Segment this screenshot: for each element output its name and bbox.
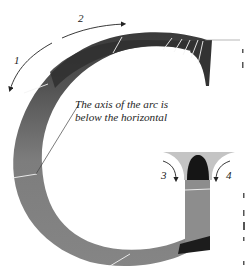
stroke-label-4: 4 xyxy=(226,169,232,181)
annotation-line-1: The axis of the arc is xyxy=(75,98,205,111)
g-top-terminal xyxy=(190,40,212,86)
g-stem xyxy=(185,170,210,242)
letter-g-diagram: 1 2 3 4 xyxy=(0,0,246,274)
g-upper-arc-shade xyxy=(50,40,207,88)
stroke-label-1: 1 xyxy=(14,54,20,66)
stroke-label-2: 2 xyxy=(78,12,84,24)
g-bowl-stroke xyxy=(13,32,207,266)
edge-marks xyxy=(242,49,245,265)
stroke-arrow-2 xyxy=(62,24,124,38)
annotation-line-2: below the horizontal xyxy=(75,111,205,124)
annotation-text: The axis of the arc is below the horizon… xyxy=(75,98,205,124)
stroke-label-3: 3 xyxy=(160,169,167,181)
